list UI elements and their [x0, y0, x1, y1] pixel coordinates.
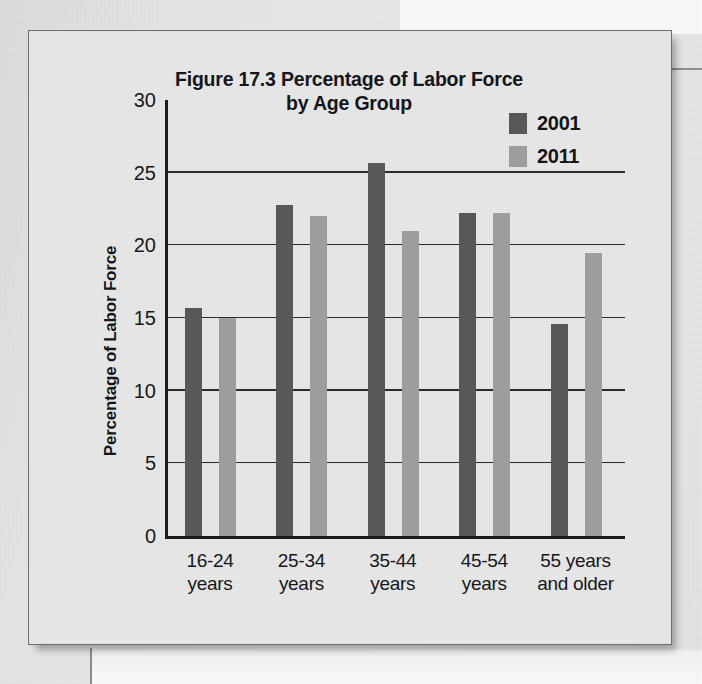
- figure-box: Figure 17.3 Percentage of Labor Force by…: [28, 30, 672, 645]
- bar-2011-16-24-years[interactable]: [219, 318, 236, 536]
- page-paper-band-top: [400, 0, 702, 34]
- bar-group: 16-24years: [168, 100, 259, 536]
- y-tick-label-5: 5: [145, 452, 156, 475]
- bar-2001-35-44-years[interactable]: [368, 163, 385, 537]
- page-rule-horizontal: [672, 68, 702, 70]
- x-axis-category-label-line: 55 years: [521, 549, 631, 572]
- x-axis-category-label-line: and older: [521, 572, 631, 595]
- bars-layer: 16-24years25-34years35-44years45-54years…: [168, 100, 625, 536]
- page-rule-vertical: [90, 648, 92, 684]
- y-tick-label-20: 20: [134, 234, 156, 257]
- bar-2011-45-54-years[interactable]: [493, 213, 510, 536]
- bar-2011-35-44-years[interactable]: [402, 231, 419, 536]
- y-axis-title: Percentage of Labor Force: [101, 221, 121, 481]
- y-tick-label-25: 25: [134, 161, 156, 184]
- x-axis-category-label: 55 yearsand older: [521, 549, 631, 595]
- page-paper-band-bottom: [90, 650, 702, 684]
- bar-2011-55-years-and-older[interactable]: [585, 253, 602, 536]
- bar-2001-25-34-years[interactable]: [276, 205, 293, 536]
- plot-area: 051015202530 16-24years25-34years35-44ye…: [168, 100, 625, 536]
- chart-title-line-1: Figure 17.3 Percentage of Labor Force: [149, 67, 549, 91]
- bar-2001-45-54-years[interactable]: [459, 213, 476, 536]
- bar-group: 55 yearsand older: [534, 100, 625, 536]
- y-tick-label-30: 30: [134, 89, 156, 112]
- y-tick-label-0: 0: [145, 525, 156, 548]
- bar-2001-16-24-years[interactable]: [185, 308, 202, 536]
- y-tick-label-10: 10: [134, 379, 156, 402]
- bar-2001-55-years-and-older[interactable]: [551, 324, 568, 536]
- bar-2011-25-34-years[interactable]: [310, 216, 327, 536]
- y-tick-label-15: 15: [134, 307, 156, 330]
- bar-group: 45-54years: [442, 100, 533, 536]
- bar-group: 25-34years: [259, 100, 350, 536]
- x-axis-line: [165, 536, 625, 539]
- bar-group: 35-44years: [351, 100, 442, 536]
